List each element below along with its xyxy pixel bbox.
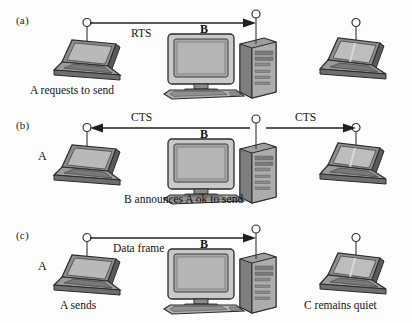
monitor-icon: [168, 139, 234, 198]
laptop-a-device: [42, 123, 134, 195]
panel-c: (c) A A sends: [0, 215, 412, 323]
laptop-c-device: [310, 233, 402, 305]
arrow-label-rts: RTS: [131, 27, 151, 39]
panel-a: (a): [0, 0, 412, 105]
monitor-icon: [168, 34, 234, 93]
laptop-a-device: [42, 18, 134, 90]
desktop-b-device: [160, 32, 280, 100]
desktop-b-device: [160, 247, 280, 315]
tower-case-icon: [240, 253, 276, 313]
panel-c-label: (c): [16, 229, 29, 241]
caption-a-sends: A sends: [60, 299, 96, 311]
arrow-label-data-frame: Data frame: [113, 242, 164, 254]
caption-a-requests-to-send: A requests to send: [30, 84, 114, 96]
arrow-label-cts-left: CTS: [131, 111, 152, 123]
laptop-c-device: [310, 18, 402, 90]
monitor-icon: [168, 249, 234, 308]
tower-case-icon: [240, 38, 276, 98]
panel-b-label: (b): [16, 119, 29, 131]
tower-case-icon: [240, 143, 276, 203]
keyboard-icon: [164, 305, 244, 314]
keyboard-icon: [164, 90, 244, 99]
caption-c-remains-quiet: C remains quiet: [304, 299, 377, 311]
laptop-c-device: [310, 123, 402, 195]
caption-b-announces: B announces A ok to send: [124, 193, 243, 205]
panel-a-label: (a): [16, 14, 29, 26]
maca-protocol-figure: (a): [0, 0, 412, 323]
panel-b: (b) A B: [0, 105, 412, 215]
arrow-label-cts-right: CTS: [295, 111, 316, 123]
